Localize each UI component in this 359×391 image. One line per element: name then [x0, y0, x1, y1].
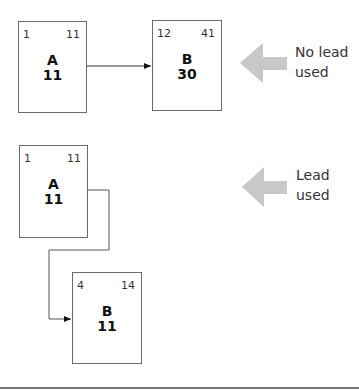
- activity-a-start: 1: [23, 28, 30, 41]
- activity-b-name: B: [153, 52, 221, 67]
- activity-a-name: A: [19, 53, 86, 68]
- activity-a-duration: 11: [19, 68, 86, 83]
- activity-b-name: B: [73, 304, 141, 319]
- activity-a-start: 1: [24, 152, 31, 165]
- activity-a-finish: 11: [67, 152, 81, 165]
- activity-b-finish: 14: [121, 279, 135, 292]
- lead-used-label: Lead used: [296, 165, 330, 205]
- top-activity-b-box: 12 41 B 30: [152, 20, 222, 111]
- activity-b-finish: 41: [201, 27, 215, 40]
- activity-b-duration: 30: [153, 67, 221, 82]
- bottom-divider: [0, 387, 359, 389]
- activity-a-duration: 11: [20, 192, 87, 207]
- bottom-activity-a-box: 1 11 A 11: [19, 145, 88, 238]
- bottom-activity-b-box: 4 14 B 11: [72, 272, 142, 364]
- activity-a-name: A: [20, 177, 87, 192]
- activity-b-start: 4: [77, 279, 84, 292]
- top-arrow-left-icon: [240, 43, 287, 83]
- top-activity-a-box: 1 11 A 11: [18, 21, 87, 113]
- activity-b-duration: 11: [73, 319, 141, 334]
- bottom-arrow-left-icon: [242, 167, 287, 207]
- activity-a-finish: 11: [66, 28, 80, 41]
- activity-b-start: 12: [157, 27, 171, 40]
- no-lead-label: No lead used: [295, 42, 348, 82]
